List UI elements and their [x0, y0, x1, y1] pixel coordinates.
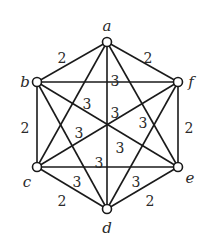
- edge-weight-b-d: 3: [75, 125, 84, 141]
- edge-weight-b-c: 2: [21, 120, 30, 136]
- node-label-f: f: [187, 73, 196, 91]
- node-label-d: d: [102, 219, 112, 237]
- edge-weight-c-e: 3: [73, 174, 82, 190]
- edge-weight-b-f: 3: [111, 105, 120, 121]
- edge-weight-a-d: 3: [111, 73, 120, 89]
- edge-a-c: [37, 42, 107, 167]
- edge-weight-f-d: 3: [132, 174, 141, 190]
- node-label-c: c: [23, 173, 32, 191]
- node-e: [174, 163, 183, 172]
- edge-weight-f-c: 3: [95, 155, 104, 171]
- edge-weight-f-e: 2: [185, 120, 194, 136]
- edge-weight-a-f: 2: [144, 50, 153, 66]
- edge-weight-a-b: 2: [58, 50, 67, 66]
- node-d: [103, 205, 112, 214]
- edge-weight-b-e: 3: [116, 140, 125, 156]
- node-c: [33, 163, 42, 172]
- node-label-a: a: [103, 17, 112, 35]
- graph-diagram: 222222333333333 abfced: [0, 0, 212, 242]
- edge-weight-a-e: 3: [139, 115, 148, 131]
- node-b: [33, 78, 42, 87]
- edge-weight-c-d: 2: [58, 193, 67, 209]
- edge-e-d: [107, 167, 178, 209]
- node-f: [174, 78, 183, 87]
- edges-group: [37, 42, 178, 209]
- edge-weight-a-c: 3: [83, 96, 92, 112]
- edge-weight-e-d: 2: [146, 193, 155, 209]
- node-label-e: e: [186, 169, 195, 187]
- node-label-b: b: [20, 73, 30, 91]
- graph-svg: 222222333333333 abfced: [0, 0, 212, 242]
- node-a: [103, 38, 112, 47]
